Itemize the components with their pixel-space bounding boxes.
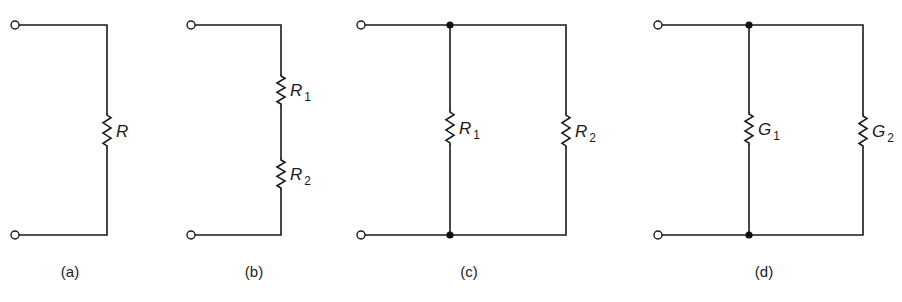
conductance-g2: G2	[859, 114, 894, 148]
component-label: R	[116, 122, 128, 141]
junction-dot	[745, 21, 752, 28]
junction-dot	[446, 21, 453, 28]
terminal-icon	[11, 231, 19, 239]
top-wire	[662, 25, 863, 114]
panel-b: R1R2 (b)	[187, 21, 311, 280]
junction-dot	[745, 231, 752, 238]
resistor-icon	[446, 110, 454, 145]
wires	[19, 25, 107, 235]
resistor-r2: R2	[277, 158, 311, 190]
panel-caption: (b)	[245, 263, 263, 280]
component-label: R2	[290, 165, 311, 188]
resistors: G1G2	[745, 112, 894, 148]
terminal-icon	[654, 231, 662, 239]
bottom-wire	[662, 148, 863, 235]
resistors: R	[103, 113, 128, 148]
terminal-icon	[11, 21, 19, 29]
terminals	[187, 21, 195, 239]
component-label: R1	[459, 119, 480, 142]
panel-caption: (a)	[61, 263, 79, 280]
resistor-icon	[745, 112, 753, 145]
conductance-g1: G1	[745, 112, 780, 145]
bottom-wire	[19, 148, 107, 235]
panel-caption: (c)	[460, 263, 478, 280]
component-label: G2	[872, 122, 894, 145]
bottom-wire	[365, 148, 566, 235]
junction-dot	[446, 231, 453, 238]
resistors: R1R2	[446, 110, 596, 148]
resistors: R1R2	[277, 74, 311, 190]
terminal-icon	[357, 21, 365, 29]
terminals	[11, 21, 19, 239]
terminal-icon	[357, 231, 365, 239]
component-label: R2	[575, 122, 596, 145]
resistor-r: R	[103, 113, 128, 148]
terminals	[357, 21, 365, 239]
resistor-r1: R1	[446, 110, 480, 145]
panel-d: G1G2 (d)	[654, 21, 894, 280]
top-wire	[365, 25, 566, 113]
bottom-wire	[195, 190, 281, 235]
circuit-diagram: R (a) R1R2 (b) R1R2 (c) G1G2 (d)	[0, 0, 902, 302]
terminal-icon	[187, 21, 195, 29]
panel-c: R1R2 (c)	[357, 21, 596, 280]
top-wire	[195, 25, 281, 74]
resistor-icon	[277, 74, 285, 106]
resistor-icon	[103, 113, 111, 148]
terminal-icon	[654, 21, 662, 29]
resistor-icon	[562, 113, 570, 148]
resistor-r1: R1	[277, 74, 311, 106]
resistor-r2: R2	[562, 113, 596, 148]
top-wire	[19, 25, 107, 113]
terminals	[654, 21, 662, 239]
resistor-icon	[277, 158, 285, 190]
component-label: G1	[758, 120, 780, 143]
panel-caption: (d)	[755, 263, 773, 280]
wires	[195, 25, 281, 235]
terminal-icon	[187, 231, 195, 239]
panel-a: R (a)	[11, 21, 128, 280]
resistor-icon	[859, 114, 867, 148]
component-label: R1	[290, 81, 311, 104]
